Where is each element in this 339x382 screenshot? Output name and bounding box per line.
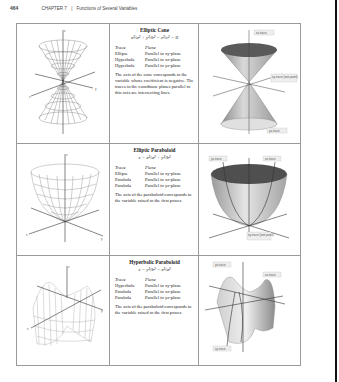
svg-text:z: z — [66, 153, 68, 157]
x-axis-label: x — [29, 95, 31, 99]
surface-info-elliptic-paraboloid: Elliptic Paraboloid z = x²/a² + y²/b² Tr… — [110, 144, 199, 256]
surface-title: Elliptic Cone — [115, 27, 194, 33]
wireframe-figure-hyperbolic-paraboloid: z y x — [17, 256, 110, 366]
y-axis-label: y — [95, 87, 97, 91]
surface-description: The axis of the paraboloid corresponds t… — [115, 304, 194, 316]
trace-row: HyperbolaParallel to yz-plane — [115, 63, 194, 69]
wireframe-figure-elliptic-paraboloid: z x y — [17, 144, 110, 256]
trace-row: ParabolaParallel to yz-plane — [115, 183, 194, 189]
xy-trace-label: xy-trace (one point) — [248, 233, 274, 237]
surface-equation: z = y²/b² − x²/a² — [115, 267, 194, 273]
quadric-surfaces-table: z x y Elliptic Cone x²/a² + y²/b² − z²/c… — [16, 23, 301, 366]
z-axis-label: z — [64, 29, 66, 33]
xy-trace-label: xy-trace — [215, 347, 226, 351]
page-edge-bar — [335, 0, 337, 382]
hyperbolic-paraboloid-shaded-icon: yz-trace xz-trace xy-trace — [199, 256, 300, 360]
elliptic-paraboloid-wireframe-icon: z x y — [17, 144, 109, 250]
xz-trace-label: xz-trace — [265, 157, 276, 161]
chapter-title: Functions of Several Variables — [77, 6, 138, 11]
page-number: 464 — [10, 5, 18, 11]
surface-equation: x²/a² + y²/b² − z²/c² = 0 — [115, 35, 194, 41]
shaded-figure-elliptic-paraboloid: yz-trace xz-trace xy-trace (one point) — [199, 144, 301, 256]
svg-text:x: x — [27, 327, 29, 331]
cone-shaded-icon: xz-trace xy-trace (one point) yz-trace — [199, 24, 300, 138]
surface-equation: z = x²/a² + y²/b² — [115, 155, 194, 161]
header-separator: | — [71, 6, 72, 11]
xz-trace-label: xz-trace — [265, 273, 276, 277]
running-header: 464 CHAPTER 7 | Functions of Several Var… — [10, 5, 137, 11]
trace-row: ParabolaParallel to yz-plane — [115, 295, 194, 301]
table-row-hyperbolic-paraboloid: z y x Hyperbolic Paraboloid z = y²/b² − … — [17, 256, 301, 366]
surface-description: The axis of the paraboloid corresponds t… — [115, 192, 194, 204]
yz-trace-label: yz-trace — [269, 129, 280, 133]
table-row-elliptic-cone: z x y Elliptic Cone x²/a² + y²/b² − z²/c… — [17, 24, 301, 144]
surface-title: Hyperbolic Paraboloid — [115, 259, 194, 265]
svg-text:y: y — [101, 237, 103, 241]
xy-trace-label: xy-trace (one point) — [272, 75, 298, 79]
surface-description: The axis of the cone corresponds to the … — [115, 72, 194, 96]
surface-info-hyperbolic-paraboloid: Hyperbolic Paraboloid z = y²/b² − x²/a² … — [110, 256, 199, 366]
shaded-figure-cone: xz-trace xy-trace (one point) yz-trace — [199, 24, 301, 144]
yz-trace-label: yz-trace — [211, 157, 222, 161]
svg-text:z: z — [68, 265, 70, 269]
hyperbolic-paraboloid-wireframe-icon: z y x — [17, 256, 109, 360]
surface-info-cone: Elliptic Cone x²/a² + y²/b² − z²/c² = 0 … — [110, 24, 199, 144]
svg-text:x: x — [26, 233, 28, 237]
cone-wireframe-icon: z x y — [17, 24, 109, 138]
yz-trace-label: yz-trace — [215, 263, 226, 267]
elliptic-paraboloid-shaded-icon: yz-trace xz-trace xy-trace (one point) — [199, 144, 300, 250]
table-row-elliptic-paraboloid: z x y Elliptic Paraboloid z = x²/a² + y²… — [17, 144, 301, 256]
wireframe-figure-cone: z x y — [17, 24, 110, 144]
shaded-figure-hyperbolic-paraboloid: yz-trace xz-trace xy-trace — [199, 256, 301, 366]
xz-trace-label: xz-trace — [256, 31, 267, 35]
surface-title: Elliptic Paraboloid — [115, 147, 194, 153]
chapter-label: CHAPTER 7 — [42, 6, 67, 11]
